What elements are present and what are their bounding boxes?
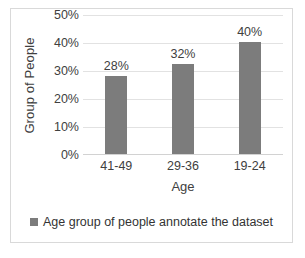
bar[interactable] [239,42,261,154]
y-axis-tick-label: 10% [54,120,79,134]
y-axis-tick-label: 40% [54,36,79,50]
y-axis-tick-label: 20% [54,92,79,106]
chart-container: Group of People 0%10%20%30%40%50% 28%32%… [10,8,293,243]
y-axis-title: Group of People [19,15,39,155]
y-axis-tick-label: 0% [61,148,79,162]
bar[interactable] [172,64,194,154]
bar-slot: 28% [83,15,150,155]
bar-value-label: 28% [104,59,129,73]
y-axis-tick-label: 50% [54,8,79,22]
x-axis-tick-labels: 41-4929-3619-24 [83,159,283,177]
bar-slot: 40% [216,15,283,155]
x-axis-tick-label: 19-24 [234,159,266,173]
bar-slot: 32% [150,15,217,155]
x-axis-line [83,154,283,155]
y-axis-title-label: Group of People [22,37,37,133]
x-axis-title: Age [83,179,283,194]
bar[interactable] [105,76,127,154]
chart-legend: Age group of people annotate the dataset [11,215,292,229]
plot-area: 28%32%40% [83,15,283,155]
x-axis-tick-label: 41-49 [100,159,132,173]
y-axis-tick-labels: 0%10%20%30%40%50% [39,15,81,155]
bar-value-label: 32% [170,47,195,61]
x-axis-tick-label: 29-36 [167,159,199,173]
y-axis-tick-label: 30% [54,64,79,78]
legend-item-label: Age group of people annotate the dataset [43,215,273,229]
legend-swatch-icon [30,218,38,226]
bar-value-label: 40% [237,25,262,39]
